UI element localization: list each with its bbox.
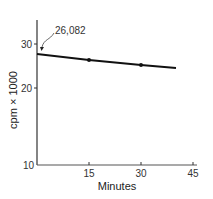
y-tick-label-10: 10 (23, 160, 35, 171)
data-point-15 (87, 58, 91, 62)
y-axis-title: cpm × 1000 (7, 71, 19, 129)
y-tick-label-20: 20 (21, 83, 33, 94)
annotation-arrow (42, 33, 54, 47)
y-tick-label-30: 30 (21, 39, 33, 50)
x-tick-label-45: 45 (187, 168, 199, 179)
data-line (37, 54, 176, 68)
chart: 30 20 10 15 30 45 Minutes cpm × 1000 26,… (0, 0, 213, 199)
x-axis-title: Minutes (98, 180, 137, 192)
x-tick-label-30: 30 (135, 168, 147, 179)
x-tick-label-15: 15 (83, 168, 95, 179)
data-point-30 (139, 63, 143, 67)
annotation-label: 26,082 (55, 25, 86, 36)
arrowhead-icon (40, 47, 44, 51)
